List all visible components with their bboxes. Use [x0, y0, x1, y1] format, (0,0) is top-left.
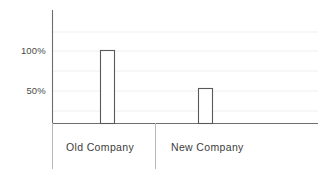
y-tick-label-50: 50%: [8, 85, 46, 96]
bar-chart: 100% 50% Old Company New Company: [0, 0, 324, 176]
bar-rect[interactable]: [199, 89, 213, 124]
category-label-old-company: Old Company: [66, 141, 134, 153]
bar-new-company[interactable]: [199, 89, 213, 124]
chart-canvas: [0, 0, 324, 176]
y-tick-label-100: 100%: [8, 45, 46, 56]
bar-old-company[interactable]: [101, 51, 115, 124]
gridlines: [52, 32, 318, 111]
category-label-new-company: New Company: [171, 141, 244, 153]
bar-rect[interactable]: [101, 51, 115, 124]
